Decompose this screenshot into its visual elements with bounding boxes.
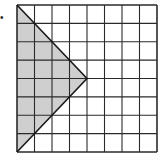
- grid-diagram: [0, 0, 162, 155]
